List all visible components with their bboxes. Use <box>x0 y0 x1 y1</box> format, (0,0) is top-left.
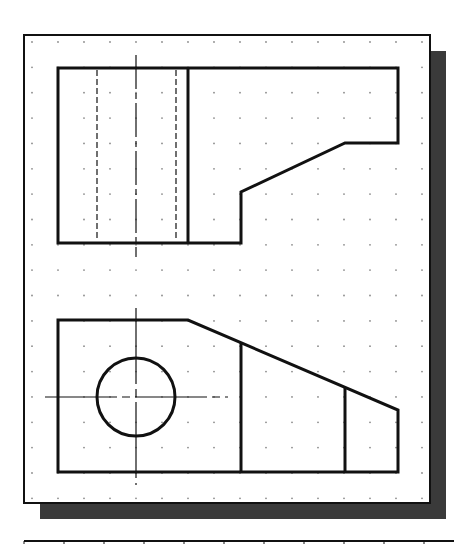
drawing-canvas <box>0 0 454 544</box>
frame-rect <box>24 35 430 503</box>
drawing-frame <box>24 35 430 503</box>
